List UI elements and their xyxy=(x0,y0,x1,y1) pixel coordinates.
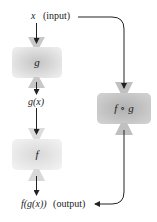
output-expr: f(g(x)) xyxy=(21,198,47,209)
arrow-fog-to-output xyxy=(95,130,124,204)
input-label: x (input) xyxy=(31,10,70,22)
arrow-input-to-fog xyxy=(78,17,124,88)
output-label: f(g(x)) (output) xyxy=(21,198,85,210)
input-note: (input) xyxy=(43,10,70,21)
g-machine-label: g xyxy=(12,56,62,68)
input-var: x xyxy=(31,10,35,21)
f-machine-label: f xyxy=(12,148,62,160)
output-note: (output) xyxy=(53,198,85,209)
gx-label: g(x) xyxy=(28,96,44,108)
fog-machine-label: f ∘ g xyxy=(97,102,151,115)
